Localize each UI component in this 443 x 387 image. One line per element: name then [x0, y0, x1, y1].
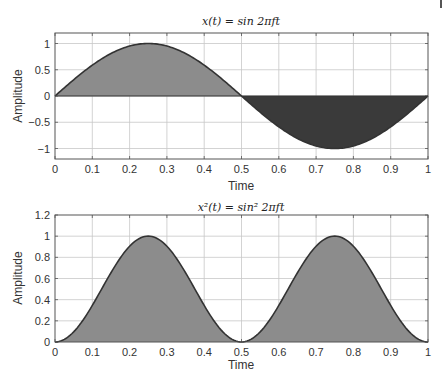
bottom-plot: 00.10.20.30.40.50.60.70.80.91 1.210.80.6… [11, 201, 431, 372]
x-tick-label: 1 [425, 163, 431, 175]
top-x-axis-label: Time [228, 179, 255, 193]
x-tick-label: 0.4 [197, 346, 212, 358]
y-tick-label: 1 [44, 38, 50, 50]
y-tick-label: −0.5 [28, 116, 50, 128]
x-tick-label: 0.9 [383, 163, 398, 175]
x-tick-label: 0.2 [122, 163, 137, 175]
x-tick-label: 0.5 [234, 346, 249, 358]
figure: 00.10.20.30.40.50.60.70.80.91 10.50−0.5−… [0, 0, 443, 387]
x-tick-label: 0.7 [308, 163, 323, 175]
x-tick-label: 0.8 [346, 346, 361, 358]
x-tick-label: 0 [52, 346, 58, 358]
x-tick-label: 0.3 [159, 346, 174, 358]
top-plot: 00.10.20.30.40.50.60.70.80.91 10.50−0.5−… [11, 15, 431, 193]
bottom-y-tick-labels: 1.210.80.60.40.20 [35, 209, 50, 348]
x-tick-label: 1 [425, 346, 431, 358]
x-tick-label: 0.3 [159, 163, 174, 175]
y-tick-label: 0.2 [35, 315, 50, 327]
y-tick-label: 0.4 [35, 294, 50, 306]
bottom-x-tick-labels: 00.10.20.30.40.50.60.70.80.91 [52, 346, 431, 358]
x-tick-label: 0.1 [85, 346, 100, 358]
x-tick-label: 0.6 [271, 346, 286, 358]
y-tick-label: 1 [44, 230, 50, 242]
y-tick-label: 1.2 [35, 209, 50, 221]
bottom-plot-title: x²(t) = sin² 2πft [198, 201, 285, 214]
y-tick-label: 0.5 [35, 64, 50, 76]
y-tick-label: 0 [44, 336, 50, 348]
y-tick-label: 0 [44, 90, 50, 102]
x-tick-label: 0.1 [85, 163, 100, 175]
x-tick-label: 0.5 [234, 163, 249, 175]
x-tick-label: 0 [52, 163, 58, 175]
x-tick-label: 0.8 [346, 163, 361, 175]
y-tick-label: −1 [37, 143, 50, 155]
x-tick-label: 0.4 [197, 163, 212, 175]
x-tick-label: 0.7 [308, 346, 323, 358]
y-tick-label: 0.8 [35, 251, 50, 263]
bottom-y-axis-label: Amplitude [11, 251, 25, 305]
bottom-x-axis-label: Time [228, 358, 255, 372]
x-tick-label: 0.9 [383, 346, 398, 358]
top-x-tick-labels: 00.10.20.30.40.50.60.70.80.91 [52, 163, 431, 175]
y-tick-label: 0.6 [35, 273, 50, 285]
top-y-tick-labels: 10.50−0.5−1 [28, 38, 50, 155]
top-plot-title: x(t) = sin 2πft [202, 15, 280, 28]
top-y-axis-label: Amplitude [11, 69, 25, 123]
x-tick-label: 0.6 [271, 163, 286, 175]
x-tick-label: 0.2 [122, 346, 137, 358]
